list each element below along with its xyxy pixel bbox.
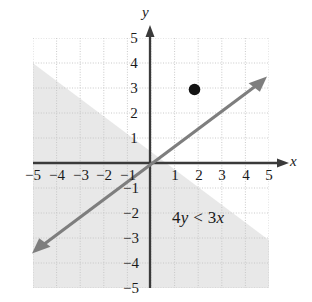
inequality-coef-1: 4 xyxy=(172,208,181,227)
y-tick-label-5: 5 xyxy=(125,31,143,46)
y-tick-label-neg5: −5 xyxy=(119,281,143,296)
x-axis-label: x xyxy=(290,154,297,169)
inequality-operator: < xyxy=(189,208,208,227)
x-tick-label-1: 1 xyxy=(164,168,186,183)
y-tick-label-neg3: −3 xyxy=(119,231,143,246)
x-tick-label-5: 5 xyxy=(258,168,280,183)
inequality-label: 4y < 3x xyxy=(172,209,224,226)
coordinate-plane-svg xyxy=(0,0,312,302)
graph-figure: y x −5 −4 −3 −2 −1 1 2 3 4 5 5 4 3 2 1 −… xyxy=(0,0,312,302)
y-tick-label-3: 3 xyxy=(125,81,143,96)
y-tick-label-1: 1 xyxy=(125,131,143,146)
test-point-marker xyxy=(189,84,201,96)
y-tick-label-2: 2 xyxy=(125,106,143,121)
x-tick-label-2: 2 xyxy=(188,168,210,183)
inequality-var-x: x xyxy=(216,208,224,227)
y-tick-label-4: 4 xyxy=(125,56,143,71)
x-tick-label-4: 4 xyxy=(235,168,257,183)
y-axis-label: y xyxy=(142,5,149,20)
y-tick-label-neg1: −1 xyxy=(119,181,143,196)
x-tick-label-3: 3 xyxy=(211,168,233,183)
y-tick-label-neg2: −2 xyxy=(119,206,143,221)
y-tick-label-neg4: −4 xyxy=(119,256,143,271)
inequality-var-y: y xyxy=(181,208,189,227)
